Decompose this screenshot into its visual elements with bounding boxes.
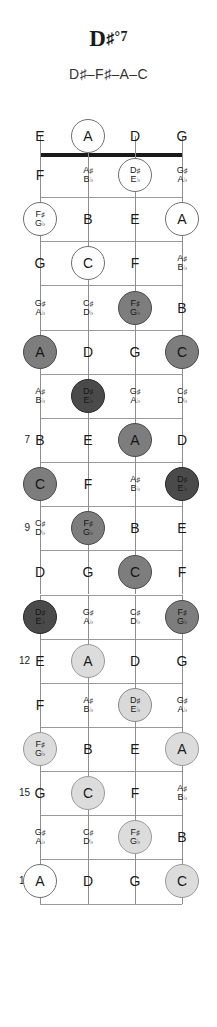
note-label: F	[178, 565, 187, 579]
fretboard-note[interactable]: G♯A♭	[23, 291, 57, 325]
fretboard-note[interactable]: E	[165, 511, 199, 545]
fretboard-note[interactable]: G♯A♭	[165, 688, 199, 722]
note-name-primary: B	[83, 742, 92, 756]
note-label: D♯E♭	[130, 166, 140, 184]
fretboard-note-highlighted[interactable]: F♯G♭	[71, 511, 105, 545]
fretboard-note[interactable]: B	[23, 423, 57, 457]
note-label: E	[130, 742, 139, 756]
fretboard-note[interactable]: E	[71, 423, 105, 457]
note-name-primary: F	[36, 168, 45, 182]
fretboard-note[interactable]: G♯A♭	[118, 379, 152, 413]
fretboard-note-highlighted[interactable]: A	[118, 423, 152, 457]
fretboard-note[interactable]: G	[118, 864, 152, 898]
fretboard-note[interactable]: A♯B♭	[71, 688, 105, 722]
note-label: D♯E♭	[177, 475, 187, 493]
fretboard-note[interactable]: D	[118, 119, 152, 153]
fretboard-note[interactable]: G	[165, 644, 199, 678]
fretboard-note[interactable]: C♯D♭	[23, 511, 57, 545]
fretboard-note[interactable]: C♯D♭	[71, 820, 105, 854]
note-label: D	[130, 129, 140, 143]
fretboard-note-highlighted[interactable]: D♯E♭	[118, 688, 152, 722]
note-name-primary: B	[177, 301, 186, 315]
fretboard-note-highlighted[interactable]: F♯G♭	[23, 732, 57, 766]
fretboard-note[interactable]: F	[23, 158, 57, 192]
fretboard-note-highlighted[interactable]: D♯E♭	[23, 600, 57, 634]
fretboard-note[interactable]: D	[71, 864, 105, 898]
fretboard-note[interactable]: D	[23, 555, 57, 589]
note-label: F♯G♭	[35, 740, 45, 758]
fretboard-note-highlighted[interactable]: F♯G♭	[23, 202, 57, 236]
fretboard-note[interactable]: G	[71, 555, 105, 589]
fretboard-note[interactable]: A♯B♭	[71, 158, 105, 192]
note-name-enharmonic: E♭	[35, 617, 44, 626]
fretboard-note[interactable]: C♯D♭	[118, 600, 152, 634]
fretboard-note-highlighted[interactable]: A	[71, 119, 105, 153]
note-name-enharmonic: D♭	[177, 396, 187, 405]
fretboard-note[interactable]: E	[118, 732, 152, 766]
note-name-primary: B	[35, 433, 44, 447]
fretboard-note-highlighted[interactable]: D♯E♭	[118, 158, 152, 192]
fretboard-note-highlighted[interactable]: A	[23, 335, 57, 369]
fretboard-note-highlighted[interactable]: A	[165, 202, 199, 236]
note-name-enharmonic: G♭	[130, 837, 140, 846]
fretboard-note[interactable]: E	[23, 644, 57, 678]
fretboard-note[interactable]: A♯B♭	[23, 379, 57, 413]
fretboard-note-highlighted[interactable]: F♯G♭	[165, 600, 199, 634]
fretboard-note[interactable]: E	[118, 202, 152, 236]
fretboard-note[interactable]: C♯D♭	[165, 379, 199, 413]
note-name-enharmonic: B♭	[130, 484, 139, 493]
fretboard-note[interactable]: E	[23, 119, 57, 153]
fretboard-note[interactable]: A♯B♭	[118, 467, 152, 501]
fretboard-note-highlighted[interactable]: A	[23, 864, 57, 898]
fretboard-note[interactable]: G♯A♭	[23, 820, 57, 854]
fretboard-note[interactable]: B	[165, 820, 199, 854]
fretboard-note[interactable]: D	[71, 335, 105, 369]
note-name-enharmonic: G♭	[177, 617, 187, 626]
fretboard-note[interactable]: G♯A♭	[165, 158, 199, 192]
fretboard-note-highlighted[interactable]: A	[71, 644, 105, 678]
fretboard-note[interactable]: B	[165, 291, 199, 325]
fretboard-note-highlighted[interactable]: F♯G♭	[118, 820, 152, 854]
note-name-enharmonic: B♭	[35, 396, 44, 405]
fretboard-note[interactable]: F	[118, 776, 152, 810]
fretboard-note-highlighted[interactable]: C	[71, 246, 105, 280]
note-name-enharmonic: G♭	[83, 528, 93, 537]
fretboard-note-highlighted[interactable]: C	[71, 776, 105, 810]
note-name-primary: D	[130, 654, 140, 668]
fretboard-note[interactable]: D	[165, 423, 199, 457]
fretboard-note[interactable]: G	[23, 776, 57, 810]
fretboard-note[interactable]: B	[118, 511, 152, 545]
note-name-primary: D	[35, 565, 45, 579]
fretboard-note[interactable]: G	[165, 119, 199, 153]
note-name-enharmonic: D♭	[83, 837, 93, 846]
fretboard-note[interactable]: F	[118, 246, 152, 280]
note-label: B	[130, 521, 139, 535]
fretboard-note-highlighted[interactable]: D♯E♭	[71, 379, 105, 413]
note-label: E	[177, 521, 186, 535]
fretboard-note[interactable]: G	[23, 246, 57, 280]
fretboard-note[interactable]: A♯B♭	[165, 246, 199, 280]
fretboard-note-highlighted[interactable]: C	[118, 555, 152, 589]
fretboard-note[interactable]: F	[23, 688, 57, 722]
note-label: C♯D♭	[130, 608, 140, 626]
fretboard-note[interactable]: B	[71, 732, 105, 766]
fretboard-note-highlighted[interactable]: C	[23, 467, 57, 501]
fretboard-note[interactable]: D	[118, 644, 152, 678]
note-name-enharmonic: B♭	[177, 263, 186, 272]
fretboard-note-highlighted[interactable]: D♯E♭	[165, 467, 199, 501]
note-name-primary: B	[130, 521, 139, 535]
fret-line	[40, 285, 182, 286]
fretboard-note-highlighted[interactable]: A	[165, 732, 199, 766]
fretboard-note[interactable]: B	[71, 202, 105, 236]
fretboard-note[interactable]: F	[165, 555, 199, 589]
fretboard-note-highlighted[interactable]: C	[165, 864, 199, 898]
fretboard-note[interactable]: G♯A♭	[71, 600, 105, 634]
fretboard-note[interactable]: G	[118, 335, 152, 369]
note-name-primary: C	[177, 345, 187, 359]
fretboard-note[interactable]: C♯D♭	[71, 291, 105, 325]
note-name-primary: G	[177, 654, 188, 668]
fretboard-note[interactable]: A♯B♭	[165, 776, 199, 810]
fretboard-note-highlighted[interactable]: C	[165, 335, 199, 369]
fretboard-note-highlighted[interactable]: F♯G♭	[118, 291, 152, 325]
fretboard-note[interactable]: F	[71, 467, 105, 501]
